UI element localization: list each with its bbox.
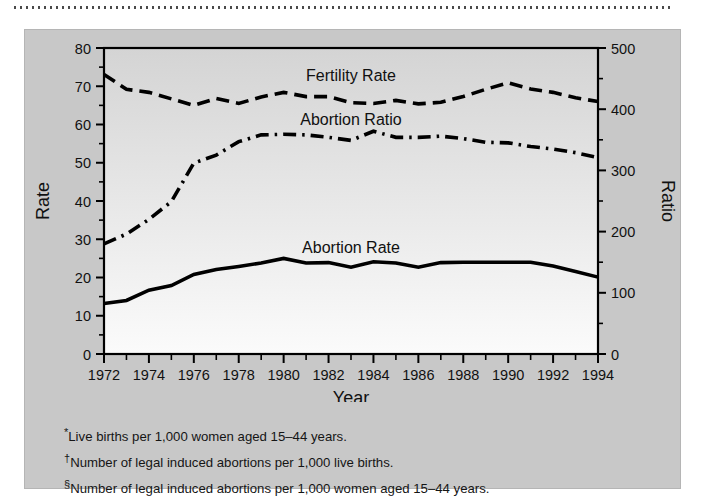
x-axis-tick-label: 1992	[537, 367, 569, 383]
footnote-3-text: Number of legal induced abortions per 1,…	[70, 481, 489, 496]
top-dotted-rule	[14, 6, 674, 9]
x-axis-tick-label: 1980	[268, 367, 300, 383]
footnotes-block: *Live births per 1,000 women aged 15–44 …	[64, 422, 684, 500]
y-axis-tick-label: 50	[75, 155, 91, 171]
y2-axis-tick-label: 300	[611, 163, 635, 179]
footnote-2-text: Number of legal induced abortions per 1,…	[70, 455, 393, 470]
y-axis-tick-label: 40	[75, 194, 91, 210]
y2-axis-tick-label: 0	[611, 347, 619, 363]
y2-axis-tick-label: 500	[611, 41, 635, 57]
footnote-3: §Number of legal induced abortions per 1…	[64, 474, 684, 500]
x-axis-tick-label: 1990	[492, 367, 524, 383]
y-axis-title: Rate	[33, 182, 53, 220]
figure-container: 0102030405060708001002003004005001972197…	[0, 0, 701, 504]
chart-panel: 0102030405060708001002003004005001972197…	[24, 29, 681, 489]
x-axis-title: Year	[333, 388, 369, 402]
series-label-abortion-ratio: Abortion Ratio	[300, 111, 401, 128]
x-axis-tick-label: 1988	[447, 367, 479, 383]
y2-axis-tick-label: 200	[611, 224, 635, 240]
x-axis-tick-label: 1978	[223, 367, 255, 383]
line-chart: 0102030405060708001002003004005001972197…	[25, 30, 680, 402]
plot-wrapper: 0102030405060708001002003004005001972197…	[25, 30, 680, 488]
y2-axis-title: Ratio	[658, 180, 678, 222]
x-axis-tick-label: 1974	[133, 367, 165, 383]
x-axis-tick-label: 1984	[357, 367, 389, 383]
x-axis-tick-label: 1986	[402, 367, 434, 383]
plot-area-background	[104, 48, 598, 354]
footnote-1-text: Live births per 1,000 women aged 15–44 y…	[68, 429, 347, 444]
x-axis-tick-label: 1976	[178, 367, 210, 383]
y-axis-tick-label: 60	[75, 117, 91, 133]
x-axis-tick-label: 1994	[582, 367, 614, 383]
y2-axis-tick-label: 100	[611, 285, 635, 301]
y-axis-tick-label: 0	[83, 347, 91, 363]
footnote-1: *Live births per 1,000 women aged 15–44 …	[64, 422, 684, 448]
series-label-fertility-rate: Fertility Rate	[306, 67, 396, 84]
y-axis-tick-label: 80	[75, 41, 91, 57]
series-label-abortion-rate: Abortion Rate	[302, 239, 400, 256]
y-axis-tick-label: 10	[75, 308, 91, 324]
y-axis-tick-label: 70	[75, 79, 91, 95]
footnote-2: †Number of legal induced abortions per 1…	[64, 448, 684, 474]
y2-axis-tick-label: 400	[611, 102, 635, 118]
y-axis-tick-label: 30	[75, 232, 91, 248]
x-axis-tick-label: 1972	[88, 367, 120, 383]
x-axis-tick-label: 1982	[312, 367, 344, 383]
y-axis-tick-label: 20	[75, 270, 91, 286]
